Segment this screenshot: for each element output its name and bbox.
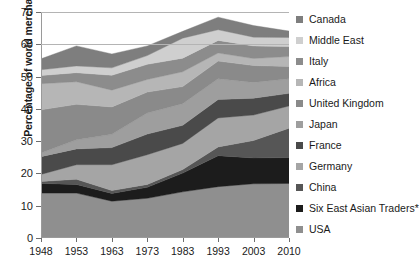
legend-item-label: United Kingdom [309, 98, 384, 109]
legend-swatch-icon [296, 226, 303, 233]
legend-swatch-icon [296, 121, 303, 128]
y-axis-tick [36, 44, 41, 45]
legend-item[interactable]: USA [296, 219, 414, 240]
y-axis-tick [36, 141, 41, 142]
legend-item-label: China [309, 182, 336, 193]
x-axis-tick [76, 238, 77, 242]
y-axis-tick [36, 206, 41, 207]
x-axis-tick-label: 1983 [171, 245, 194, 257]
legend-item[interactable]: Canada [296, 9, 414, 30]
legend-item[interactable]: Italy [296, 51, 414, 72]
legend-swatch-icon [296, 142, 303, 149]
legend-item[interactable]: Africa [296, 72, 414, 93]
legend-item[interactable]: United Kingdom [296, 93, 414, 114]
x-axis-tick-label: 1973 [136, 245, 159, 257]
x-axis-tick [183, 238, 184, 242]
legend-item[interactable]: China [296, 177, 414, 198]
chart-legend: CanadaMiddle EastItalyAfricaUnited Kingd… [296, 9, 414, 240]
x-axis-line [41, 237, 289, 238]
x-axis-tick-label: 1948 [29, 245, 52, 257]
x-axis-tick [254, 238, 255, 242]
legend-item-label: France [309, 140, 342, 151]
x-axis-tick-label: 1953 [65, 245, 88, 257]
legend-swatch-icon [296, 163, 303, 170]
legend-item[interactable]: Germany [296, 156, 414, 177]
legend-item-label: Italy [309, 56, 328, 67]
y-axis-tick [36, 12, 41, 13]
x-axis-tick-label: 1963 [100, 245, 123, 257]
x-axis-tick [289, 238, 290, 242]
legend-item-label: Middle East [309, 35, 364, 46]
stacked-areas [41, 12, 289, 238]
y-axis-tick [36, 173, 41, 174]
y-axis-tick [36, 109, 41, 110]
legend-item-label: Six East Asian Traders* [309, 203, 419, 214]
legend-swatch-icon [296, 100, 303, 107]
legend-item-label: Japan [309, 119, 338, 130]
legend-swatch-icon [296, 16, 303, 23]
x-axis-tick-label: 2010 [277, 245, 300, 257]
x-axis-tick [218, 238, 219, 242]
x-axis-tick-label: 1993 [206, 245, 229, 257]
y-axis-tick-label: 70 [21, 6, 33, 18]
y-axis-tick-label: 30 [21, 135, 33, 147]
y-axis-tick-label: 40 [21, 103, 33, 115]
y-axis-line [41, 12, 42, 238]
legend-item[interactable]: France [296, 135, 414, 156]
y-axis-tick [36, 77, 41, 78]
legend-swatch-icon [296, 37, 303, 44]
x-axis-tick [112, 238, 113, 242]
x-axis-tick-label: 2003 [242, 245, 265, 257]
legend-swatch-icon [296, 58, 303, 65]
gridline [41, 44, 289, 45]
legend-swatch-icon [296, 79, 303, 86]
legend-item-label: Africa [309, 77, 336, 88]
y-axis-tick-label: 0 [27, 232, 33, 244]
legend-item[interactable]: Six East Asian Traders* [296, 198, 414, 219]
legend-item[interactable]: Middle East [296, 30, 414, 51]
x-axis-tick [147, 238, 148, 242]
legend-item-label: USA [309, 224, 331, 235]
y-axis-tick-label: 20 [21, 167, 33, 179]
y-axis-tick-label: 60 [21, 38, 33, 50]
legend-item-label: Canada [309, 14, 346, 25]
legend-item[interactable]: Japan [296, 114, 414, 135]
y-axis-tick-label: 50 [21, 71, 33, 83]
y-axis-tick-label: 10 [21, 200, 33, 212]
legend-swatch-icon [296, 184, 303, 191]
plot-area: 0102030405060701948195319631973198319932… [41, 12, 289, 238]
legend-item-label: Germany [309, 161, 352, 172]
x-axis-tick [41, 238, 42, 242]
legend-swatch-icon [296, 205, 303, 212]
gridline [41, 12, 289, 13]
